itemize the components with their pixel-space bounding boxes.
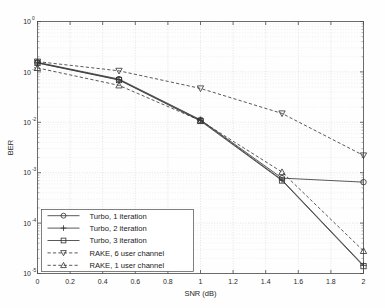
y-tick-label: 10 xyxy=(23,169,31,176)
x-tick-label: 1.2 xyxy=(228,278,238,285)
legend-label: Turbo, 3 iteration xyxy=(90,236,147,245)
chart-legend[interactable]: Turbo, 1 iterationTurbo, 2 iterationTurb… xyxy=(42,210,194,272)
x-tick-label: 1.8 xyxy=(326,278,336,285)
x-tick-label: 1.6 xyxy=(293,278,303,285)
y-tick-exponent: -2 xyxy=(32,117,37,122)
x-tick-label: 2 xyxy=(362,278,366,285)
ber-vs-snr-chart: 00.20.40.60.811.21.41.61.8210010-110-210… xyxy=(0,0,385,308)
x-tick-label: 0 xyxy=(36,278,40,285)
legend-label: Turbo, 2 iteration xyxy=(90,224,147,233)
legend-label: RAKE, 1 user channel xyxy=(90,261,165,270)
y-tick-label: 10 xyxy=(23,69,31,76)
y-tick-exponent: -3 xyxy=(32,167,37,172)
y-tick-label: 10 xyxy=(23,18,31,25)
x-tick-label: 1 xyxy=(199,278,203,285)
x-tick-label: 0.2 xyxy=(65,278,75,285)
legend-label: RAKE, 6 user channel xyxy=(90,249,165,258)
y-tick-label: 10 xyxy=(23,119,31,126)
y-tick-exponent: 0 xyxy=(32,16,35,21)
y-tick-exponent: -1 xyxy=(32,67,37,72)
legend-label: Turbo, 1 iteration xyxy=(90,212,147,221)
y-tick-label: 10 xyxy=(23,220,31,227)
y-tick-exponent: -4 xyxy=(32,218,37,223)
x-tick-label: 0.6 xyxy=(130,278,140,285)
x-tick-label: 1.4 xyxy=(261,278,271,285)
y-tick-label: 10 xyxy=(23,270,31,277)
y-tick-exponent: -5 xyxy=(32,268,37,273)
y-axis-title: BER xyxy=(6,139,15,155)
figure-container: 00.20.40.60.811.21.41.61.8210010-110-210… xyxy=(0,0,385,308)
x-tick-label: 0.4 xyxy=(98,278,108,285)
x-tick-label: 0.8 xyxy=(163,278,173,285)
x-axis-title: SNR (dB) xyxy=(184,289,217,298)
